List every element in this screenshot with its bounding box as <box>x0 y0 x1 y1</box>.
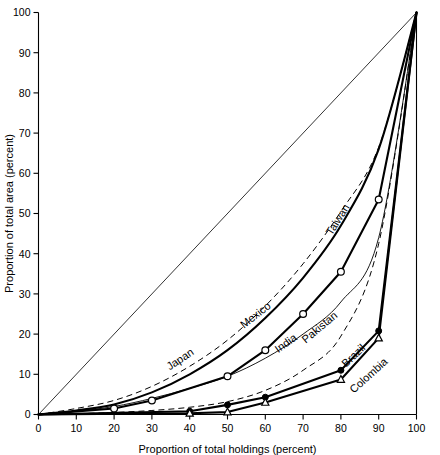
y-tick-label-60: 60 <box>19 167 31 179</box>
y-tick-label-20: 20 <box>19 328 31 340</box>
y-tick-label-0: 0 <box>25 408 31 420</box>
y-tick-label-100: 100 <box>13 6 31 18</box>
marker-india-60 <box>262 347 269 354</box>
y-tick-label-10: 10 <box>19 368 31 380</box>
y-tick-label-50: 50 <box>19 207 31 219</box>
x-tick-label-20: 20 <box>108 422 120 434</box>
marker-india-90 <box>375 196 382 203</box>
x-axis-title: Proportion of total holdings (percent) <box>139 443 317 455</box>
marker-brazil-80 <box>338 367 344 373</box>
y-tick-label-90: 90 <box>19 47 31 59</box>
x-tick-label-30: 30 <box>146 422 158 434</box>
marker-india-30 <box>149 397 156 404</box>
marker-india-20 <box>111 405 118 412</box>
x-tick-label-70: 70 <box>297 422 309 434</box>
y-tick-label-30: 30 <box>19 288 31 300</box>
x-tick-label-50: 50 <box>222 422 234 434</box>
x-tick-label-0: 0 <box>36 422 42 434</box>
y-tick-label-70: 70 <box>19 127 31 139</box>
marker-india-50 <box>224 373 231 380</box>
x-tick-label-10: 10 <box>70 422 82 434</box>
y-tick-label-40: 40 <box>19 248 31 260</box>
x-tick-label-80: 80 <box>335 422 347 434</box>
marker-india-70 <box>300 311 307 318</box>
x-tick-label-40: 40 <box>184 422 196 434</box>
x-tick-label-60: 60 <box>259 422 271 434</box>
x-tick-label-100: 100 <box>408 422 426 434</box>
chart-background <box>0 0 440 455</box>
y-axis-title: Proportion of total area (percent) <box>3 134 15 293</box>
chart-canvas: 0102030405060708090100 01020304050607080… <box>0 0 440 455</box>
marker-india-80 <box>338 268 345 275</box>
lorenz-curve-figure: 0102030405060708090100 01020304050607080… <box>0 0 440 455</box>
x-tick-label-90: 90 <box>373 422 385 434</box>
y-tick-label-80: 80 <box>19 87 31 99</box>
